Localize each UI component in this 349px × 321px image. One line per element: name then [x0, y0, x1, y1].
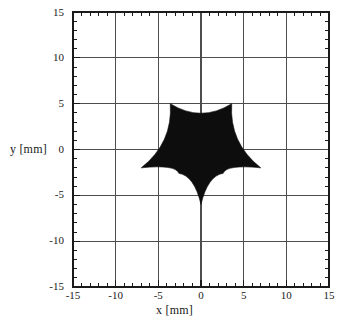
xtick-label-neg10: -10	[101, 289, 131, 301]
xtick-label-0: 0	[186, 289, 216, 301]
xtick-label-neg15: -15	[58, 289, 88, 301]
x-axis-title: x [mm]	[0, 303, 349, 318]
ytick-label-5: 5	[34, 97, 64, 109]
chart-figure: 15 10 5 0 -5 -10 -15 -15 -10 -5 0 5 10 1…	[0, 0, 349, 321]
ytick-label-10: 10	[34, 51, 64, 63]
plot-canvas	[0, 0, 349, 321]
xtick-label-neg5: -5	[143, 289, 173, 301]
xtick-label-15: 15	[314, 289, 344, 301]
ytick-label-neg10: -10	[34, 234, 64, 246]
ytick-label-15: 15	[34, 6, 64, 18]
xtick-label-10: 10	[271, 289, 301, 301]
xtick-label-5: 5	[229, 289, 259, 301]
y-axis-title: y [mm]	[10, 142, 47, 157]
ytick-label-neg5: -5	[34, 188, 64, 200]
